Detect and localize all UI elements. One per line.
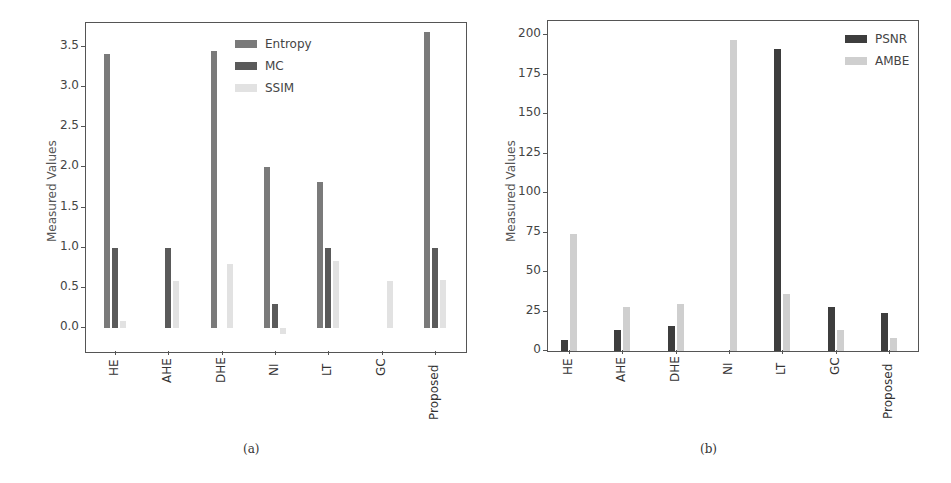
bar-entropy-proposed <box>424 32 430 328</box>
legend-item-ssim: SSIM <box>235 77 312 99</box>
legend-swatch <box>235 62 257 70</box>
y-tick-mark <box>543 34 547 35</box>
x-tick-label: DHE <box>214 357 228 383</box>
x-tick-mark <box>115 351 116 355</box>
y-tick-label: 1.5 <box>43 199 79 213</box>
chart-panel-b: Measured Values 0255075100125150175200 H… <box>475 0 951 483</box>
legend-item-ambe: AMBE <box>845 50 909 72</box>
x-tick-label: Proposed <box>881 364 895 419</box>
bar-ssim-dhe <box>227 264 233 328</box>
x-tick-mark <box>328 351 329 355</box>
x-tick-mark <box>836 350 837 354</box>
y-tick-label: 150 <box>505 105 541 119</box>
legend-swatch <box>235 84 257 92</box>
x-tick-mark <box>889 350 890 354</box>
y-tick-label: 2.0 <box>43 158 79 172</box>
y-tick-label: 125 <box>505 145 541 159</box>
bar-psnr-gc <box>828 307 835 351</box>
bar-ambe-lt <box>783 294 790 351</box>
x-tick-label: NI <box>267 363 281 376</box>
legend-item-mc: MC <box>235 55 312 77</box>
x-tick-label: HE <box>107 359 121 376</box>
caption-b: (b) <box>700 442 717 456</box>
y-tick-label: 25 <box>505 303 541 317</box>
x-tick-label: AHE <box>614 357 628 382</box>
x-tick-mark <box>222 351 223 355</box>
y-tick-mark <box>81 287 85 288</box>
x-tick-mark <box>435 351 436 355</box>
y-tick-mark <box>543 192 547 193</box>
bar-ambe-ni <box>730 40 737 351</box>
x-tick-mark <box>729 350 730 354</box>
y-tick-label: 75 <box>505 224 541 238</box>
y-tick-label: 3.5 <box>43 38 79 52</box>
bar-mc-lt <box>325 248 331 328</box>
legend-label: PSNR <box>875 32 907 46</box>
y-tick-mark <box>543 271 547 272</box>
bar-ambe-dhe <box>677 304 684 351</box>
y-tick-mark <box>543 232 547 233</box>
bar-psnr-dhe <box>668 326 675 351</box>
x-tick-mark <box>168 351 169 355</box>
bar-psnr-proposed <box>881 313 888 351</box>
bar-mc-ni <box>272 304 278 328</box>
legend-swatch <box>845 35 867 43</box>
bar-entropy-he <box>104 54 110 328</box>
bar-ssim-ni <box>280 328 286 334</box>
x-tick-label: Proposed <box>427 365 441 420</box>
bar-ambe-gc <box>837 330 844 351</box>
legend-item-entropy: Entropy <box>235 33 312 55</box>
bar-ssim-proposed <box>440 280 446 328</box>
y-tick-label: 3.0 <box>43 78 79 92</box>
bar-mc-he <box>112 248 118 327</box>
y-tick-mark <box>81 327 85 328</box>
x-tick-mark <box>782 350 783 354</box>
x-tick-mark <box>622 350 623 354</box>
bar-entropy-dhe <box>211 51 217 328</box>
bar-entropy-ni <box>264 167 270 327</box>
caption-a: (a) <box>243 442 260 456</box>
x-tick-label: GC <box>828 357 842 375</box>
bar-psnr-ahe <box>614 330 621 351</box>
x-tick-mark <box>382 351 383 355</box>
y-tick-mark <box>543 153 547 154</box>
bar-ssim-gc <box>387 281 393 328</box>
y-tick-mark <box>81 86 85 87</box>
bar-entropy-lt <box>317 182 323 328</box>
x-tick-label: GC <box>374 358 388 376</box>
x-tick-label: NI <box>721 362 735 375</box>
y-tick-mark <box>81 126 85 127</box>
y-tick-mark <box>543 311 547 312</box>
x-tick-label: AHE <box>160 358 174 383</box>
x-tick-label: DHE <box>668 356 682 382</box>
y-axis-label-a: Measured Values <box>45 142 59 242</box>
y-tick-label: 100 <box>505 184 541 198</box>
y-tick-label: 175 <box>505 66 541 80</box>
bar-mc-ahe <box>165 248 171 327</box>
y-tick-mark <box>543 74 547 75</box>
y-tick-label: 200 <box>505 26 541 40</box>
legend-item-psnr: PSNR <box>845 28 909 50</box>
y-tick-mark <box>543 350 547 351</box>
x-tick-label: HE <box>561 358 575 375</box>
y-tick-mark <box>81 46 85 47</box>
chart-panel-a: Measured Values 0.00.51.01.52.02.53.03.5… <box>0 0 475 483</box>
y-tick-mark <box>81 247 85 248</box>
y-tick-label: 50 <box>505 263 541 277</box>
bar-psnr-lt <box>774 49 781 351</box>
legend-swatch <box>235 40 257 48</box>
y-tick-label: 0.5 <box>43 279 79 293</box>
legend-label: Entropy <box>265 37 312 51</box>
bar-ssim-ahe <box>173 281 179 328</box>
bar-ambe-ahe <box>623 307 630 351</box>
legend-label: AMBE <box>875 54 909 68</box>
legend-swatch <box>845 57 867 65</box>
bar-ambe-proposed <box>890 338 897 351</box>
legend-b: PSNRAMBE <box>845 28 909 72</box>
bar-psnr-he <box>561 340 568 351</box>
legend-a: EntropyMCSSIM <box>235 33 312 99</box>
x-tick-label: LT <box>320 363 334 375</box>
legend-label: MC <box>265 59 284 73</box>
y-tick-label: 0.0 <box>43 319 79 333</box>
bar-ssim-lt <box>333 261 339 328</box>
